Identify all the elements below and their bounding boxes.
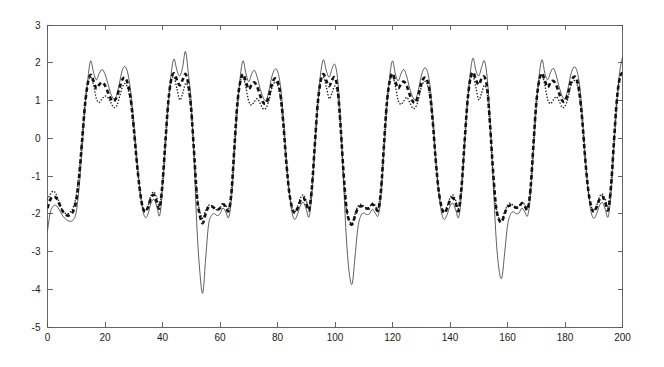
x-tick-label: 40 [157, 332, 169, 343]
x-tick-label: 160 [499, 332, 516, 343]
y-tick-label: -1 [32, 171, 41, 182]
plot-frame-rect [48, 25, 623, 327]
y-tick-label: 3 [35, 20, 41, 31]
y-tick-label: -3 [32, 246, 41, 257]
x-tick-label: 100 [327, 332, 344, 343]
x-tick-label: 120 [384, 332, 401, 343]
y-tick-label: -2 [32, 208, 41, 219]
y-tick-label: -5 [32, 322, 41, 333]
x-tick-label: 20 [99, 332, 111, 343]
x-axis-tick-labels: 020406080100120140160180200 [45, 332, 632, 343]
line-chart: 020406080100120140160180200 3210-1-2-3-4… [0, 0, 664, 367]
x-axis-ticks [48, 25, 623, 327]
figure-container: 020406080100120140160180200 3210-1-2-3-4… [0, 0, 664, 367]
x-tick-label: 180 [557, 332, 574, 343]
data-series-group [48, 51, 623, 293]
x-tick-label: 60 [214, 332, 226, 343]
x-tick-label: 140 [442, 332, 459, 343]
x-tick-label: 80 [272, 332, 284, 343]
plot-frame [48, 25, 623, 327]
y-tick-label: 1 [35, 95, 41, 106]
y-axis-tick-labels: 3210-1-2-3-4-5 [32, 20, 41, 333]
x-tick-label: 0 [45, 332, 51, 343]
series-line-solid [48, 51, 623, 293]
y-tick-label: -4 [32, 284, 41, 295]
y-tick-label: 2 [35, 57, 41, 68]
x-tick-label: 200 [614, 332, 631, 343]
y-tick-label: 0 [35, 133, 41, 144]
y-axis-ticks [48, 25, 623, 327]
